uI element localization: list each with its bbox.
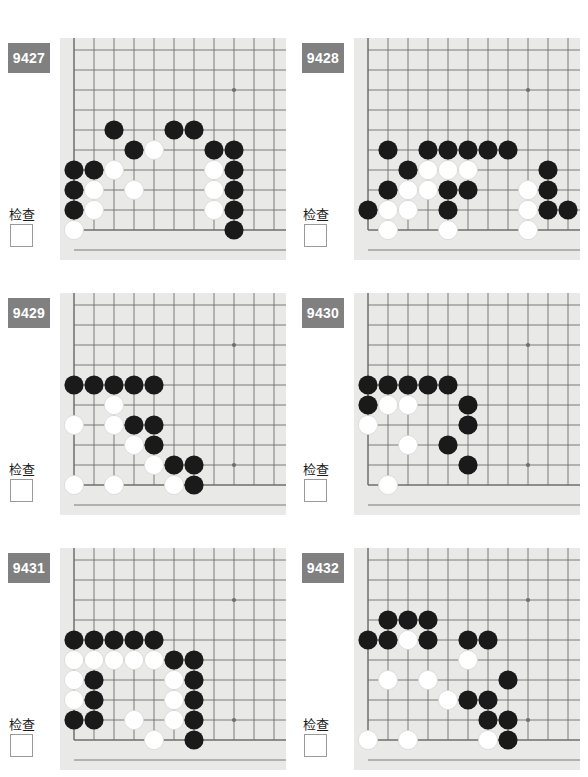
white-stone[interactable] xyxy=(104,650,123,669)
check-checkbox[interactable] xyxy=(304,479,327,502)
white-stone[interactable] xyxy=(64,670,83,689)
white-stone[interactable] xyxy=(104,415,123,434)
black-stone[interactable] xyxy=(498,140,517,159)
black-stone[interactable] xyxy=(358,375,377,394)
black-stone[interactable] xyxy=(64,200,83,219)
black-stone[interactable] xyxy=(458,180,477,199)
white-stone[interactable] xyxy=(64,690,83,709)
black-stone[interactable] xyxy=(64,160,83,179)
white-stone[interactable] xyxy=(378,670,397,689)
black-stone[interactable] xyxy=(64,710,83,729)
black-stone[interactable] xyxy=(478,140,497,159)
white-stone[interactable] xyxy=(438,690,457,709)
go-board[interactable] xyxy=(354,548,580,770)
white-stone[interactable] xyxy=(64,475,83,494)
white-stone[interactable] xyxy=(418,160,437,179)
black-stone[interactable] xyxy=(64,375,83,394)
white-stone[interactable] xyxy=(478,730,497,749)
white-stone[interactable] xyxy=(104,160,123,179)
check-checkbox[interactable] xyxy=(304,734,327,757)
white-stone[interactable] xyxy=(398,435,417,454)
black-stone[interactable] xyxy=(498,710,517,729)
black-stone[interactable] xyxy=(84,630,103,649)
black-stone[interactable] xyxy=(378,180,397,199)
white-stone[interactable] xyxy=(164,690,183,709)
black-stone[interactable] xyxy=(164,455,183,474)
black-stone[interactable] xyxy=(124,415,143,434)
black-stone[interactable] xyxy=(458,140,477,159)
black-stone[interactable] xyxy=(104,375,123,394)
black-stone[interactable] xyxy=(184,120,203,139)
go-board[interactable] xyxy=(60,548,286,770)
black-stone[interactable] xyxy=(164,650,183,669)
black-stone[interactable] xyxy=(184,455,203,474)
white-stone[interactable] xyxy=(204,200,223,219)
white-stone[interactable] xyxy=(144,730,163,749)
white-stone[interactable] xyxy=(458,160,477,179)
black-stone[interactable] xyxy=(124,140,143,159)
black-stone[interactable] xyxy=(378,610,397,629)
black-stone[interactable] xyxy=(558,200,577,219)
black-stone[interactable] xyxy=(104,630,123,649)
white-stone[interactable] xyxy=(398,180,417,199)
white-stone[interactable] xyxy=(124,435,143,454)
black-stone[interactable] xyxy=(458,455,477,474)
check-checkbox[interactable] xyxy=(10,734,33,757)
white-stone[interactable] xyxy=(398,200,417,219)
black-stone[interactable] xyxy=(224,220,243,239)
black-stone[interactable] xyxy=(418,140,437,159)
black-stone[interactable] xyxy=(124,630,143,649)
black-stone[interactable] xyxy=(184,690,203,709)
black-stone[interactable] xyxy=(144,415,163,434)
white-stone[interactable] xyxy=(458,650,477,669)
white-stone[interactable] xyxy=(144,650,163,669)
black-stone[interactable] xyxy=(458,630,477,649)
black-stone[interactable] xyxy=(358,630,377,649)
black-stone[interactable] xyxy=(538,180,557,199)
white-stone[interactable] xyxy=(378,220,397,239)
black-stone[interactable] xyxy=(418,610,437,629)
black-stone[interactable] xyxy=(144,375,163,394)
white-stone[interactable] xyxy=(64,650,83,669)
white-stone[interactable] xyxy=(378,395,397,414)
black-stone[interactable] xyxy=(84,710,103,729)
black-stone[interactable] xyxy=(224,180,243,199)
white-stone[interactable] xyxy=(418,180,437,199)
white-stone[interactable] xyxy=(358,730,377,749)
black-stone[interactable] xyxy=(438,140,457,159)
black-stone[interactable] xyxy=(84,690,103,709)
black-stone[interactable] xyxy=(84,160,103,179)
white-stone[interactable] xyxy=(518,220,537,239)
black-stone[interactable] xyxy=(538,200,557,219)
black-stone[interactable] xyxy=(124,375,143,394)
white-stone[interactable] xyxy=(124,180,143,199)
go-board[interactable] xyxy=(60,38,286,260)
white-stone[interactable] xyxy=(104,475,123,494)
black-stone[interactable] xyxy=(438,180,457,199)
black-stone[interactable] xyxy=(418,630,437,649)
white-stone[interactable] xyxy=(378,475,397,494)
white-stone[interactable] xyxy=(84,200,103,219)
black-stone[interactable] xyxy=(64,180,83,199)
white-stone[interactable] xyxy=(398,730,417,749)
black-stone[interactable] xyxy=(378,375,397,394)
black-stone[interactable] xyxy=(438,435,457,454)
white-stone[interactable] xyxy=(204,160,223,179)
white-stone[interactable] xyxy=(124,650,143,669)
white-stone[interactable] xyxy=(398,630,417,649)
white-stone[interactable] xyxy=(518,180,537,199)
go-board[interactable] xyxy=(354,38,580,260)
white-stone[interactable] xyxy=(64,220,83,239)
white-stone[interactable] xyxy=(204,180,223,199)
black-stone[interactable] xyxy=(538,160,557,179)
black-stone[interactable] xyxy=(184,710,203,729)
black-stone[interactable] xyxy=(184,475,203,494)
black-stone[interactable] xyxy=(144,435,163,454)
black-stone[interactable] xyxy=(478,690,497,709)
white-stone[interactable] xyxy=(398,395,417,414)
black-stone[interactable] xyxy=(498,670,517,689)
white-stone[interactable] xyxy=(358,415,377,434)
black-stone[interactable] xyxy=(378,630,397,649)
black-stone[interactable] xyxy=(358,200,377,219)
black-stone[interactable] xyxy=(398,610,417,629)
